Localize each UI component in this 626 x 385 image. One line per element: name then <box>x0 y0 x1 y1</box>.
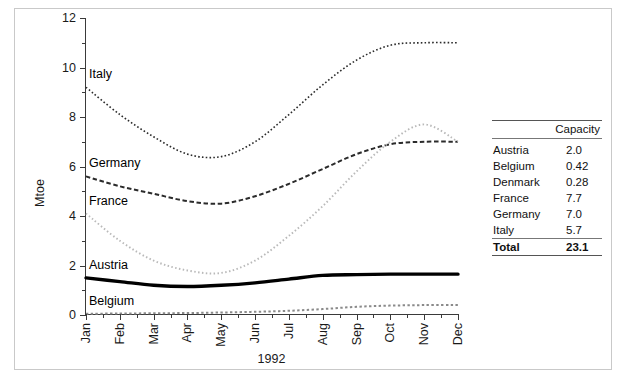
table-cell-country: France <box>493 191 529 205</box>
table-row: France7.7 <box>492 190 602 206</box>
y-axis-tick-minor <box>82 43 86 44</box>
series-label-germany: Germany <box>89 156 140 170</box>
x-axis-tick <box>424 314 425 320</box>
table-cell-country: Belgium <box>493 159 535 173</box>
y-axis-tick-minor <box>82 92 86 93</box>
capacity-table: Capacity Austria2.0Belgium0.42Denmark0.2… <box>492 120 602 256</box>
x-axis-tick-minor <box>238 314 239 318</box>
series-label-france: France <box>89 194 128 208</box>
y-axis-tick-minor <box>82 191 86 192</box>
y-axis-title: Mtoe <box>33 179 47 207</box>
x-axis-tick <box>289 314 290 320</box>
table-row: Austria2.0 <box>492 142 602 158</box>
table-cell-country: Austria <box>493 143 529 157</box>
table-cell-capacity: 2.0 <box>566 143 600 157</box>
table-header-capacity: Capacity <box>555 123 600 135</box>
series-lines <box>86 18 459 315</box>
table-header-row: Capacity <box>492 121 602 138</box>
y-axis-tick-major <box>80 18 86 19</box>
x-axis-tick-minor <box>103 314 104 318</box>
x-axis-tick <box>323 314 324 320</box>
y-axis-tick-minor <box>82 142 86 143</box>
x-axis-tick <box>154 314 155 320</box>
y-axis-tick-major <box>80 68 86 69</box>
y-axis-tick-label: 12 <box>62 11 76 25</box>
figure-root: Mtoe 1992 024681012JanFebMarAprMayJunJul… <box>0 0 626 385</box>
x-axis-title: 1992 <box>85 352 458 366</box>
series-line-belgium <box>86 305 458 314</box>
x-axis-tick-label: Nov <box>417 323 431 345</box>
x-axis-tick <box>187 314 188 320</box>
x-axis-tick-label: Apr <box>180 323 194 342</box>
table-row-total: Total 23.1 <box>492 239 602 255</box>
line-chart: Mtoe 1992 024681012JanFebMarAprMayJunJul… <box>0 0 470 385</box>
series-label-belgium: Belgium <box>89 294 134 308</box>
table-cell-country: Germany <box>493 207 540 221</box>
x-axis-tick <box>86 314 87 320</box>
y-axis-tick-label: 8 <box>69 110 76 124</box>
series-line-germany <box>86 142 458 204</box>
series-label-italy: Italy <box>89 67 112 81</box>
table-cell-country: Italy <box>493 223 514 237</box>
table-bottom-rule <box>492 255 602 256</box>
table-row: Denmark0.28 <box>492 174 602 190</box>
x-axis-tick-minor <box>137 314 138 318</box>
x-axis-tick-label: Feb <box>113 323 127 345</box>
total-value: 23.1 <box>566 240 600 254</box>
x-axis-tick <box>255 314 256 320</box>
y-axis-tick-label: 2 <box>69 259 76 273</box>
plot-area: 024681012JanFebMarAprMayJunJulAugSepOctN… <box>85 18 458 315</box>
x-axis-tick-minor <box>171 314 172 318</box>
y-axis-tick-major <box>80 117 86 118</box>
x-axis-tick-minor <box>441 314 442 318</box>
x-axis-tick <box>390 314 391 320</box>
table-cell-country: Denmark <box>493 175 540 189</box>
x-axis-tick-label: Jul <box>282 323 296 339</box>
y-axis-tick-label: 10 <box>62 61 76 75</box>
table-cell-capacity: 0.28 <box>566 175 600 189</box>
x-axis-tick-minor <box>204 314 205 318</box>
y-axis-tick-minor <box>82 290 86 291</box>
y-axis-tick-major <box>80 167 86 168</box>
table-cell-capacity: 5.7 <box>566 223 600 237</box>
y-axis-tick-major <box>80 266 86 267</box>
y-axis-tick-major <box>80 216 86 217</box>
y-axis-tick-label: 6 <box>69 160 76 174</box>
table-cell-capacity: 7.0 <box>566 207 600 221</box>
x-axis-tick <box>357 314 358 320</box>
x-axis-tick-label: Jan <box>79 323 93 343</box>
table-row: Belgium0.42 <box>492 158 602 174</box>
x-axis-tick-minor <box>340 314 341 318</box>
x-axis-tick-minor <box>373 314 374 318</box>
x-axis-tick-minor <box>407 314 408 318</box>
table-cell-capacity: 0.42 <box>566 159 600 173</box>
y-axis-tick-minor <box>82 241 86 242</box>
x-axis-tick-label: Mar <box>147 323 161 345</box>
x-axis-tick-label: Sep <box>350 323 364 345</box>
x-axis-tick-label: May <box>214 323 228 347</box>
x-axis-tick-minor <box>272 314 273 318</box>
y-axis-tick-label: 0 <box>69 308 76 322</box>
x-axis-tick <box>458 314 459 320</box>
table-row: Germany7.0 <box>492 206 602 222</box>
x-axis-tick-label: Aug <box>316 323 330 345</box>
series-line-austria <box>86 274 458 286</box>
x-axis-tick <box>221 314 222 320</box>
series-line-italy <box>86 43 458 158</box>
table-cell-capacity: 7.7 <box>566 191 600 205</box>
table-row: Italy5.7 <box>492 222 602 238</box>
x-axis-tick-label: Jun <box>248 323 262 343</box>
x-axis-tick-label: Dec <box>451 323 465 345</box>
x-axis-tick-label: Oct <box>383 323 397 342</box>
x-axis-tick-minor <box>306 314 307 318</box>
series-label-austria: Austria <box>89 258 128 272</box>
x-axis-tick <box>120 314 121 320</box>
y-axis-tick-label: 4 <box>69 209 76 223</box>
series-line-france <box>86 124 458 273</box>
total-label: Total <box>493 240 520 254</box>
table-body: Austria2.0Belgium0.42Denmark0.28France7.… <box>492 142 602 238</box>
